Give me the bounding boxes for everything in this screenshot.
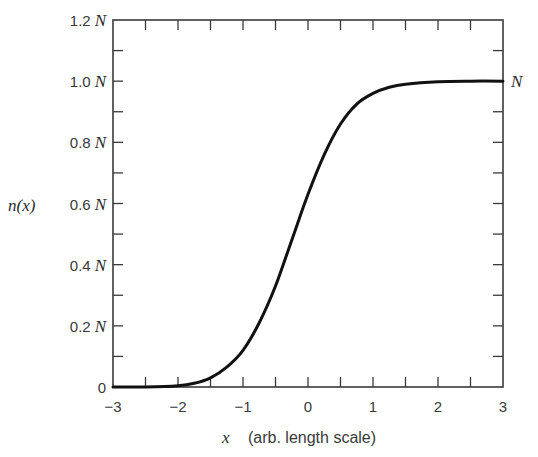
x-tick-label: −2: [169, 398, 186, 415]
y-tick-label: 0.4N: [70, 256, 108, 275]
x-axis-label: (arb. length scale): [248, 429, 376, 446]
x-tick-label: 3: [499, 398, 507, 415]
axis-ticks: [113, 20, 503, 387]
x-tick-labels: −3−2−10123: [104, 398, 507, 415]
y-tick-label: 0.8N: [70, 133, 108, 152]
x-tick-label: −1: [234, 398, 251, 415]
plot-frame: [113, 20, 503, 387]
y-axis-label: n(x): [8, 196, 36, 215]
right-axis-label: N: [510, 72, 524, 91]
x-tick-label: −3: [104, 398, 121, 415]
x-tick-label: 0: [304, 398, 312, 415]
chart: 00.2N0.4N0.6N0.8N1.0N1.2N −3−2−10123 n(x…: [0, 0, 538, 457]
x-tick-label: 1: [369, 398, 377, 415]
y-tick-label: 0: [98, 379, 106, 396]
y-tick-label: 1.0N: [70, 72, 108, 91]
x-tick-label: 2: [434, 398, 442, 415]
y-tick-label: 1.2N: [70, 11, 108, 30]
y-tick-label: 0.2N: [70, 317, 108, 336]
x-axis-variable: x: [221, 428, 230, 447]
y-tick-label: 0.6N: [70, 195, 108, 214]
data-line: [113, 81, 503, 387]
y-tick-labels: 00.2N0.4N0.6N0.8N1.0N1.2N: [70, 11, 108, 396]
